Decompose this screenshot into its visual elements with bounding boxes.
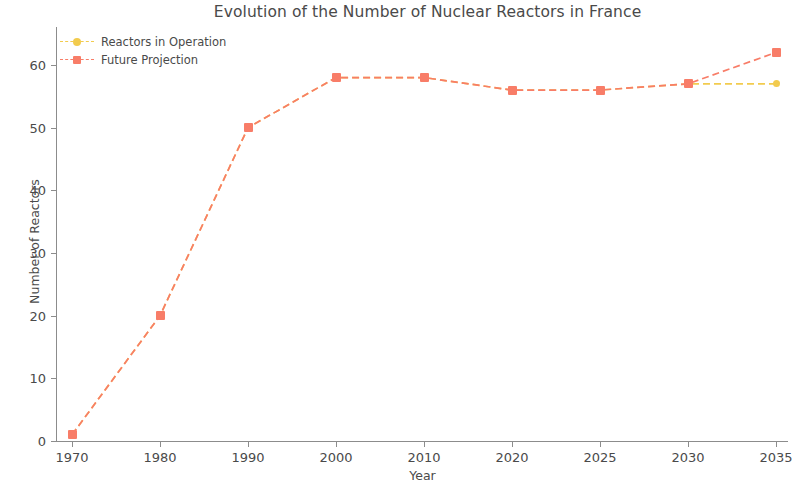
legend-entry-1[interactable]: Reactors in Operation bbox=[60, 34, 226, 49]
data-point-marker bbox=[508, 86, 517, 95]
x-axis-spine bbox=[56, 441, 788, 442]
chart-title: Evolution of the Number of Nuclear React… bbox=[57, 3, 798, 21]
x-axis-label: Year bbox=[57, 468, 788, 483]
y-tick-mark bbox=[51, 190, 56, 191]
y-tick-mark bbox=[51, 128, 56, 129]
x-tick-label: 1980 bbox=[125, 450, 195, 465]
legend-swatch-square-icon bbox=[60, 54, 94, 66]
y-tick-mark bbox=[51, 65, 56, 66]
x-tick-label: 2025 bbox=[565, 450, 635, 465]
chart-legend: Reactors in OperationFuture Projection bbox=[60, 34, 226, 67]
y-tick-mark bbox=[51, 316, 56, 317]
x-tick-mark bbox=[424, 442, 425, 447]
data-point-marker bbox=[156, 311, 165, 320]
data-point-marker bbox=[772, 48, 781, 57]
x-tick-mark bbox=[336, 442, 337, 447]
y-tick-label: 10 bbox=[6, 371, 46, 386]
y-tick-label: 0 bbox=[6, 434, 46, 449]
data-point-marker bbox=[244, 123, 253, 132]
x-tick-mark bbox=[600, 442, 601, 447]
data-point-marker bbox=[332, 73, 341, 82]
x-tick-label: 2010 bbox=[389, 450, 459, 465]
data-point-marker bbox=[684, 79, 693, 88]
x-tick-mark bbox=[72, 442, 73, 447]
legend-label: Future Projection bbox=[101, 53, 198, 67]
x-tick-label: 1970 bbox=[37, 450, 107, 465]
x-tick-mark bbox=[160, 442, 161, 447]
plot-area bbox=[57, 27, 788, 441]
x-tick-label: 2035 bbox=[741, 450, 798, 465]
y-axis-label: Number of Reactors bbox=[27, 122, 42, 362]
x-tick-mark bbox=[776, 442, 777, 447]
y-tick-mark bbox=[51, 378, 56, 379]
x-tick-label: 2030 bbox=[653, 450, 723, 465]
x-tick-label: 2000 bbox=[301, 450, 371, 465]
x-tick-label: 1990 bbox=[213, 450, 283, 465]
series-line-2 bbox=[72, 52, 776, 434]
y-tick-mark bbox=[51, 441, 56, 442]
legend-entry-2[interactable]: Future Projection bbox=[60, 52, 226, 67]
x-tick-label: 2020 bbox=[477, 450, 547, 465]
data-point-marker bbox=[773, 80, 780, 87]
data-point-marker bbox=[68, 430, 77, 439]
x-tick-mark bbox=[512, 442, 513, 447]
data-point-marker bbox=[420, 73, 429, 82]
y-tick-mark bbox=[51, 253, 56, 254]
series-lines bbox=[57, 27, 788, 441]
x-tick-mark bbox=[248, 442, 249, 447]
data-point-marker bbox=[596, 86, 605, 95]
series-line-1 bbox=[72, 78, 776, 435]
chart-figure: Evolution of the Number of Nuclear React… bbox=[0, 0, 798, 488]
y-tick-label: 60 bbox=[6, 58, 46, 73]
x-tick-mark bbox=[688, 442, 689, 447]
legend-swatch-circle-icon bbox=[60, 36, 94, 48]
legend-label: Reactors in Operation bbox=[101, 35, 226, 49]
